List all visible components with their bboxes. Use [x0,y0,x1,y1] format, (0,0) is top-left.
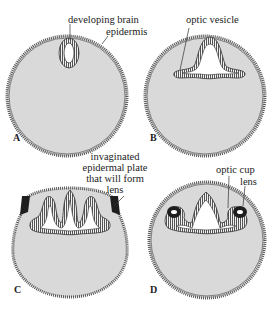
panel-label-d: D [150,284,157,295]
embryo-section-a [7,24,127,156]
label-optic-vesicle: optic vesicle [186,14,239,25]
embryo-section-c [13,188,127,297]
embryo-section-b [145,28,265,156]
leader-line [102,36,108,44]
label-epidermis: epidermis [106,26,147,37]
label-optic-cup: optic cup [216,164,255,175]
label-lens: lens [240,176,257,187]
label-invaginated-line4: lens [72,184,158,195]
panel-label-a: A [13,132,20,143]
label-invaginated-line2: epidermal plate [72,162,158,173]
panel-label-b: B [150,132,157,143]
embryo-section-d [149,176,265,298]
label-developing-brain: developing brain [68,14,139,25]
label-invaginated-line3: that will form [72,173,158,184]
panel-label-c: C [14,284,21,295]
label-invaginated-line1: invaginated [72,151,158,162]
